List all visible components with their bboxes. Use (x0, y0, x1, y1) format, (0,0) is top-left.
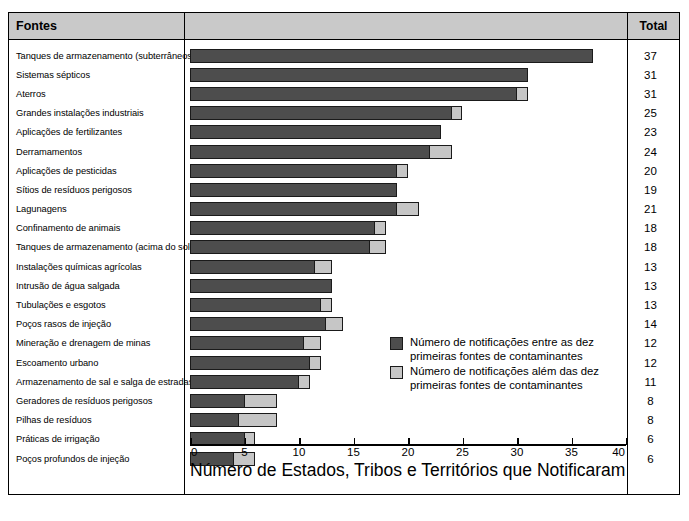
source-label: Sítios de resíduos perigosos (16, 185, 132, 195)
source-label: Armazenamento de sal e salga de estradas (16, 377, 193, 387)
axis-tick-label: 10 (293, 446, 306, 458)
total-value: 8 (628, 414, 679, 426)
table-row (185, 315, 627, 334)
bar-track (190, 183, 627, 197)
table-row: 18 (628, 219, 679, 238)
bar-segment-primary (190, 375, 299, 389)
axis-tick (299, 438, 301, 445)
table-row: Práticas de irrigação (9, 430, 184, 449)
bar-segment-primary (190, 87, 517, 101)
source-label: Tanques de armazenamento (acima do solo) (16, 242, 198, 252)
bar-segment-primary (190, 413, 239, 427)
bar-segment-primary (190, 106, 452, 120)
bar-track (190, 125, 627, 139)
table-row (185, 142, 627, 161)
table-row: Aplicações de fertilizantes (9, 123, 184, 142)
legend-item: Número de notificações além das dez prim… (390, 365, 640, 392)
bar-track (190, 49, 627, 63)
axis-tick-label: 15 (347, 446, 360, 458)
bar-segment-primary (190, 68, 528, 82)
source-label: Aplicações de fertilizantes (16, 127, 122, 137)
bar-track (190, 68, 627, 82)
table-row: Instalações químicas agrícolas (9, 257, 184, 276)
table-row (185, 257, 627, 276)
bar-segment-secondary (396, 164, 408, 178)
source-label: Poços profundos de injeção (16, 454, 129, 464)
axis-tick-label: 0 (191, 446, 197, 458)
bar-track (190, 145, 627, 159)
bar-segment-secondary (320, 298, 332, 312)
total-value: 13 (628, 299, 679, 311)
bar-segment-secondary (303, 336, 320, 350)
table-row: Tanques de armazenamento (acima do solo) (9, 238, 184, 257)
bar-track (190, 221, 627, 235)
legend-item: Número de notificações entre as dez prim… (390, 336, 640, 363)
bar-segment-primary (190, 317, 326, 331)
table-row: 13 (628, 276, 679, 295)
source-label: Instalações químicas agrícolas (16, 262, 142, 272)
table-header: Fontes Total (9, 13, 679, 40)
table-row: 13 (628, 295, 679, 314)
source-label: Escoamento urbano (16, 358, 98, 368)
source-label: Geradores de resíduos perigosos (16, 396, 152, 406)
table-row: Aplicações de pesticidas (9, 161, 184, 180)
table-row: Lagunagens (9, 200, 184, 219)
axis-tick (572, 438, 574, 445)
bar-segment-primary (190, 336, 304, 350)
table-row: 11 (628, 372, 679, 391)
total-value: 25 (628, 107, 679, 119)
total-value: 8 (628, 395, 679, 407)
bar-segment-primary (190, 221, 375, 235)
bar-segment-secondary (369, 240, 386, 254)
bar-track (190, 413, 627, 427)
table-row: 6 (628, 430, 679, 449)
bar-segment-secondary (516, 87, 528, 101)
bar-segment-secondary (238, 413, 277, 427)
source-label: Pilhas de resíduos (16, 415, 92, 425)
table-row (185, 46, 627, 65)
bar-segment-primary (190, 164, 397, 178)
total-value: 14 (628, 318, 679, 330)
table-row: 20 (628, 161, 679, 180)
table-row: Sistemas sépticos (9, 65, 184, 84)
bar-segment-primary (190, 279, 332, 293)
bar-track (190, 298, 627, 312)
bar-track (190, 394, 627, 408)
source-label: Lagunagens (16, 204, 67, 214)
table-row: 31 (628, 65, 679, 84)
bar-track (190, 317, 627, 331)
source-label: Aterros (16, 89, 46, 99)
source-label: Sistemas sépticos (16, 70, 90, 80)
total-value: 12 (628, 357, 679, 369)
source-label: Intrusão de água salgada (16, 281, 120, 291)
bar-segment-secondary (298, 375, 310, 389)
bar-segment-primary (190, 394, 245, 408)
table-row: 24 (628, 142, 679, 161)
table-row: Sítios de resíduos perigosos (9, 180, 184, 199)
table-row (185, 411, 627, 430)
table-row (185, 391, 627, 410)
bar-segment-primary (190, 356, 310, 370)
axis-tick-label: 35 (565, 446, 578, 458)
table-row (185, 104, 627, 123)
source-label: Práticas de irrigação (16, 434, 100, 444)
table-row: 18 (628, 238, 679, 257)
total-value: 13 (628, 280, 679, 292)
bar-segment-primary (190, 240, 370, 254)
bar-segment-primary (190, 260, 315, 274)
table-row (185, 200, 627, 219)
table-row: Confinamento de animais (9, 219, 184, 238)
bar-segment-primary (190, 298, 321, 312)
bar-segment-secondary (396, 202, 419, 216)
bar-segment-secondary (309, 356, 321, 370)
total-value: 18 (628, 222, 679, 234)
bar-track (190, 106, 627, 120)
table-row (185, 276, 627, 295)
header-sources: Fontes (9, 13, 185, 39)
source-label: Aplicações de pesticidas (16, 166, 117, 176)
bar-track (190, 240, 627, 254)
axis-tick-label: 30 (511, 446, 524, 458)
table-row: Tanques de armazenamento (subterrâneos) (9, 46, 184, 65)
bar-track (190, 260, 627, 274)
legend-label: Número de notificações além das dez prim… (410, 365, 640, 392)
